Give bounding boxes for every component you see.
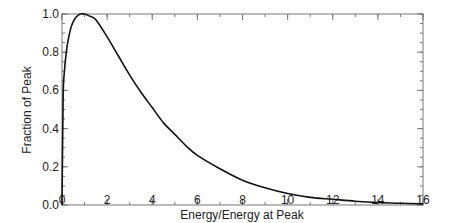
x-axis-ticks: 0246810121416 (59, 14, 430, 207)
data-series (62, 14, 423, 205)
x-tick-label: 14 (371, 193, 385, 207)
y-axis-label: Fraction of Peak (20, 65, 34, 153)
x-tick-label: 4 (149, 193, 156, 207)
chart: 0246810121416 0.00.20.40.60.81.0 Energy/… (0, 0, 450, 223)
y-tick-label: 0.0 (42, 198, 59, 212)
y-tick-label: 0.2 (42, 160, 59, 174)
y-tick-label: 0.8 (42, 45, 59, 59)
series-line (62, 14, 423, 205)
y-tick-label: 0.4 (42, 122, 59, 136)
y-tick-label: 0.6 (42, 83, 59, 97)
plot-frame (62, 14, 423, 205)
y-axis-ticks: 0.00.20.40.60.81.0 (42, 7, 423, 212)
y-tick-label: 1.0 (42, 7, 59, 21)
x-tick-label: 8 (239, 193, 246, 207)
x-axis-label: Energy/Energy at Peak (180, 208, 304, 222)
x-tick-label: 2 (104, 193, 111, 207)
x-tick-label: 6 (194, 193, 201, 207)
